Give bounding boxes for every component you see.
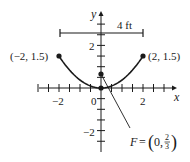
right-endpoint-dot [140,53,145,58]
vertex-dot [98,85,103,90]
y-tick-label-neg2: −2 [83,126,95,138]
focus-label-denominator: 3 [165,142,169,151]
focus-label-numerator: 2 [165,133,169,142]
focus-label-f: F [129,135,138,149]
left-endpoint-label: (−2, 1.5) [10,50,49,63]
focus-dot [98,71,103,76]
focus-label-eq: = [139,135,146,149]
x-tick-label-2: 2 [140,95,146,107]
right-endpoint-label: (2, 1.5) [148,50,180,63]
x-axis-label: x [173,90,180,104]
y-axis-label: y [90,7,97,21]
x-tick-label-0: 0 [91,95,97,107]
x-tick-label-neg2: −2 [52,95,64,107]
focus-label: F = ( 0 , 2 3 ) [129,132,177,153]
left-endpoint-dot [56,53,61,58]
focus-label-rparen: ) [171,132,177,153]
y-axis [97,11,105,152]
parabola-diagram: x y −2 0 2 2 −2 4 ft (−2, 1.5) (2, 1.5) … [0,0,190,162]
focus-label-comma: , [160,135,163,149]
y-tick-label-2: 2 [89,40,95,52]
width-bar-label: 4 ft [117,19,132,31]
